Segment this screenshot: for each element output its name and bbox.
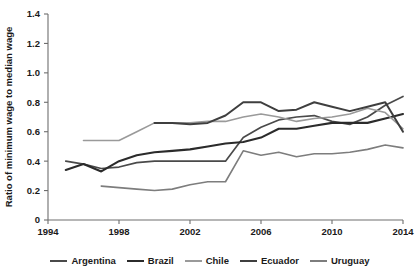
x-tick-label: 2014 [392, 226, 414, 237]
x-tick-label: 1994 [37, 226, 59, 237]
legend-label-ecuador: Ecuador [261, 256, 299, 266]
legend-label-argentina: Argentina [71, 256, 115, 266]
y-tick-label: 1.4 [27, 8, 41, 19]
legend-swatch-chile [185, 260, 202, 262]
x-axis: 199419982002200620102014 [37, 220, 414, 237]
chart-figure: 00.20.40.60.81.01.21.4 19941998200220062… [0, 0, 420, 276]
series-line-argentina [66, 96, 403, 168]
series-line-chile [84, 108, 404, 140]
legend-item-brazil[interactable]: Brazil [127, 256, 174, 266]
legend-label-uruguay: Uruguay [331, 256, 370, 266]
legend-label-chile: Chile [206, 256, 229, 266]
legend-item-uruguay[interactable]: Uruguay [310, 256, 370, 266]
legend-swatch-brazil [127, 260, 144, 262]
series-line-brazil [66, 114, 403, 171]
data-series-group [66, 96, 403, 190]
legend-item-argentina[interactable]: Argentina [50, 256, 115, 266]
y-tick-label: 0.4 [27, 156, 41, 167]
y-tick-label: 0.6 [27, 126, 40, 137]
y-tick-label: 1.2 [27, 38, 40, 49]
legend-swatch-argentina [50, 260, 67, 262]
y-tick-label: 0 [35, 214, 40, 225]
y-tick-label: 0.8 [27, 97, 40, 108]
x-tick-label: 2010 [321, 226, 342, 237]
legend-label-brazil: Brazil [148, 256, 174, 266]
chart-legend: ArgentinaBrazilChileEcuadorUruguay [0, 248, 420, 274]
chart-plot-area: 00.20.40.60.81.01.21.4 19941998200220062… [0, 0, 420, 246]
y-tick-label: 1.0 [27, 67, 40, 78]
y-tick-label: 0.2 [27, 185, 40, 196]
x-tick-label: 2002 [179, 226, 200, 237]
x-tick-label: 2006 [250, 226, 271, 237]
legend-item-ecuador[interactable]: Ecuador [240, 256, 299, 266]
legend-item-chile[interactable]: Chile [185, 256, 229, 266]
y-axis: 00.20.40.60.81.01.21.4 [27, 8, 48, 225]
x-tick-label: 1998 [108, 226, 129, 237]
line-chart-svg: 00.20.40.60.81.01.21.4 19941998200220062… [0, 0, 420, 246]
series-line-uruguay [101, 145, 403, 191]
y-axis-title-text: Ratio of minimum wage to median wage [3, 27, 14, 208]
y-axis-title: Ratio of minimum wage to median wage [3, 27, 14, 208]
legend-swatch-ecuador [240, 260, 257, 262]
legend-swatch-uruguay [310, 260, 327, 262]
